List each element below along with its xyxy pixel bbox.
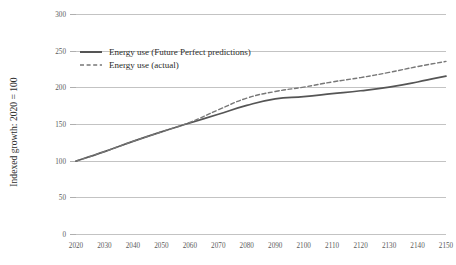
x-tick-label: 2100 bbox=[297, 242, 312, 250]
x-tick-label: 2140 bbox=[410, 242, 425, 250]
x-tick-label: 2080 bbox=[240, 242, 255, 250]
legend-label-predictions: Energy use (Future Perfect predictions) bbox=[109, 47, 251, 57]
y-tick-label: 300 bbox=[55, 11, 66, 19]
y-tick-label: 0 bbox=[62, 231, 66, 239]
x-tick-label: 2090 bbox=[268, 242, 283, 250]
x-tick-label: 2130 bbox=[382, 242, 397, 250]
x-tick-label: 2020 bbox=[69, 242, 84, 250]
x-tick-label: 2150 bbox=[439, 242, 454, 250]
y-axis-title: Indexed growth: 2020 = 100 bbox=[8, 77, 19, 187]
chart-container: 050100150200250300 202020302040205020602… bbox=[0, 0, 456, 265]
y-tick-label: 250 bbox=[55, 48, 66, 56]
x-tick-label: 2050 bbox=[154, 242, 169, 250]
x-tick-label: 2120 bbox=[353, 242, 368, 250]
y-tick-label: 200 bbox=[55, 84, 66, 92]
chart-background bbox=[0, 0, 456, 265]
y-tick-label: 150 bbox=[55, 121, 66, 129]
x-tick-label: 2030 bbox=[97, 242, 112, 250]
line-chart: 050100150200250300 202020302040205020602… bbox=[0, 0, 456, 265]
x-tick-label: 2040 bbox=[126, 242, 141, 250]
y-tick-label: 50 bbox=[59, 194, 67, 202]
legend-label-actual: Energy use (actual) bbox=[109, 60, 179, 70]
x-tick-label: 2110 bbox=[325, 242, 340, 250]
x-tick-label: 2060 bbox=[183, 242, 198, 250]
y-tick-label: 100 bbox=[55, 158, 66, 166]
x-tick-label: 2070 bbox=[211, 242, 226, 250]
